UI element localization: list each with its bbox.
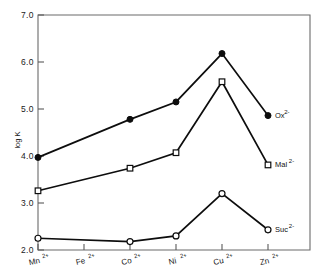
data-point-suc <box>127 239 133 245</box>
x-tick-label-charge: 2+ <box>133 252 141 259</box>
data-point-ox <box>35 154 41 160</box>
x-tick-label-element: Zn <box>259 256 270 267</box>
series-line-mal <box>38 82 268 191</box>
data-point-suc <box>265 227 271 233</box>
y-tick-label: 4.0 <box>21 151 34 161</box>
x-tick-label: Ni2+ <box>167 252 188 267</box>
line-chart-svg: 7.06.05.04.03.02.0 log K Mn2+Fe2+Co2+Ni2… <box>0 0 325 275</box>
y-axis-tick-labels: 7.06.05.04.03.02.0 <box>21 10 34 255</box>
data-point-mal <box>127 165 133 171</box>
data-point-mal <box>173 150 179 156</box>
series-line-ox <box>38 54 268 158</box>
y-axis-ticks <box>38 15 44 250</box>
data-point-suc <box>35 235 41 241</box>
y-tick-label: 6.0 <box>21 57 34 67</box>
y-tick-label: 5.0 <box>21 104 34 114</box>
series-line-suc <box>38 194 268 242</box>
data-point-mal <box>265 162 271 168</box>
plot-frame <box>38 15 310 250</box>
x-tick-label-charge: 2+ <box>179 252 187 259</box>
chart-figure: 7.06.05.04.03.02.0 log K Mn2+Fe2+Co2+Ni2… <box>0 0 325 275</box>
series-markers <box>35 51 271 245</box>
x-tick-label-charge: 2+ <box>87 252 95 259</box>
x-tick-label: Co2+ <box>120 252 143 267</box>
x-tick-label-element: Ni <box>168 256 177 266</box>
y-axis-title-text: log K <box>13 131 22 148</box>
series-label-mal: Mal2- <box>275 158 294 169</box>
x-tick-label-element: Co <box>121 256 133 267</box>
y-tick-label: 2.0 <box>21 245 34 255</box>
data-point-mal <box>35 188 41 194</box>
series-label-text: Suc <box>275 225 288 234</box>
series-label-charge: 2- <box>289 158 294 164</box>
x-tick-label-charge: 2+ <box>271 252 279 259</box>
x-tick-label-element: Cu <box>213 256 225 267</box>
x-tick-label-charge: 2+ <box>41 252 49 259</box>
data-point-ox <box>265 113 271 119</box>
x-tick-label: Cu2+ <box>212 252 235 267</box>
y-tick-label: 3.0 <box>21 198 34 208</box>
y-tick-label: 7.0 <box>21 10 34 20</box>
y-axis-title: log K <box>13 131 22 148</box>
x-axis-tick-labels: Mn2+Fe2+Co2+Ni2+Cu2+Zn2+ <box>28 252 281 267</box>
series-label-charge: 2- <box>284 109 289 115</box>
series-lines <box>38 54 268 242</box>
x-tick-label-element: Fe <box>75 256 87 267</box>
data-point-ox <box>127 116 133 122</box>
data-point-ox <box>173 99 179 105</box>
data-point-suc <box>219 191 225 197</box>
series-label-text: Mal <box>275 160 287 169</box>
data-point-suc <box>173 233 179 239</box>
x-tick-label-element: Mn <box>28 256 41 267</box>
x-axis-ticks <box>38 244 268 250</box>
x-tick-label: Zn2+ <box>259 252 281 267</box>
series-label-ox: Ox2- <box>275 109 290 120</box>
series-labels: Ox2-Mal2-Suc2- <box>275 109 294 234</box>
x-tick-label: Fe2+ <box>75 252 97 267</box>
data-point-ox <box>219 51 225 57</box>
series-label-charge: 2- <box>289 223 294 229</box>
x-tick-label-charge: 2+ <box>225 252 233 259</box>
data-point-mal <box>219 79 225 85</box>
series-label-suc: Suc2- <box>275 223 294 234</box>
